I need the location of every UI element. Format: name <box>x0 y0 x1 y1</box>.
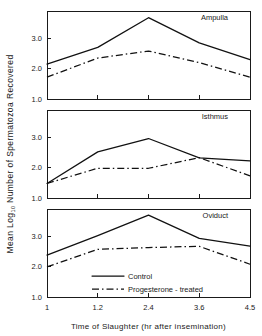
legend-label-1: Progesterone - treated <box>128 285 203 294</box>
ytick-label-isthmus-2: 3.0 <box>32 133 42 142</box>
panel-frame-ampulla <box>47 11 250 99</box>
ytick-label-ampulla-0: 1.0 <box>32 95 42 104</box>
y-axis-label-pre: Mean Log <box>5 213 15 254</box>
x-axis-label: Time of Slaughter (hr after insemination… <box>71 322 226 331</box>
series-ampulla-progesterone <box>47 51 250 77</box>
series-oviduct-control <box>47 215 250 255</box>
y-axis-label: Mean Log10 Number of Spermatozoa Recover… <box>5 54 16 253</box>
ytick-label-oviduct-0: 1.0 <box>32 293 42 302</box>
y-axis-label-post: Number of Spermatozoa Recovered <box>5 54 15 205</box>
xtick-label-3: 3.6 <box>194 303 204 312</box>
xtick-label-0: 1 <box>45 303 49 312</box>
panel-frame-isthmus <box>47 110 250 198</box>
ytick-label-oviduct-2: 3.0 <box>32 232 42 241</box>
panel-ampulla: 1.02.03.0Ampulla <box>32 11 250 104</box>
xtick-label-1: 1.2 <box>93 303 103 312</box>
y-axis-label-subscript: 10 <box>10 206 16 213</box>
panel-title-oviduct: Oviduct <box>203 211 229 220</box>
figure-container: 1.02.03.0Ampulla1.02.03.0Isthmus1.02.03.… <box>0 0 262 336</box>
ytick-label-isthmus-1: 2.0 <box>32 163 42 172</box>
xtick-label-4: 4.5 <box>245 303 255 312</box>
ytick-label-ampulla-1: 2.0 <box>32 64 42 73</box>
series-oviduct-progesterone <box>47 246 250 267</box>
legend-item-progesterone: Progesterone - treated <box>92 285 203 294</box>
series-ampulla-control <box>47 18 250 64</box>
ytick-label-ampulla-2: 3.0 <box>32 34 42 43</box>
panel-title-isthmus: Isthmus <box>202 112 229 121</box>
series-isthmus-progesterone <box>47 158 250 184</box>
series-isthmus-control <box>47 139 250 184</box>
legend-item-control: Control <box>92 272 153 281</box>
ytick-label-isthmus-0: 1.0 <box>32 194 42 203</box>
xtick-label-2: 2.4 <box>143 303 153 312</box>
panel-title-ampulla: Ampulla <box>201 13 229 22</box>
ytick-label-oviduct-1: 2.0 <box>32 262 42 271</box>
legend-label-0: Control <box>128 272 153 281</box>
y-axis-label-text: Mean Log10 Number of Spermatozoa Recover… <box>5 54 16 253</box>
panel-isthmus: 1.02.03.0Isthmus <box>32 110 250 203</box>
spermatozoa-recovery-chart: 1.02.03.0Ampulla1.02.03.0Isthmus1.02.03.… <box>0 0 262 336</box>
